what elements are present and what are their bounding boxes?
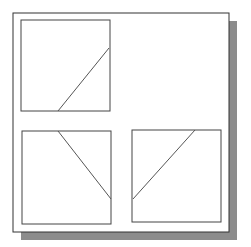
panel-bottom-right — [132, 130, 221, 222]
diagram-canvas — [0, 0, 251, 247]
panel-top-left — [21, 20, 110, 111]
panel-border — [21, 20, 110, 111]
panel-border — [22, 131, 111, 224]
panel-bottom-left — [22, 131, 111, 224]
panel-border — [132, 130, 221, 222]
